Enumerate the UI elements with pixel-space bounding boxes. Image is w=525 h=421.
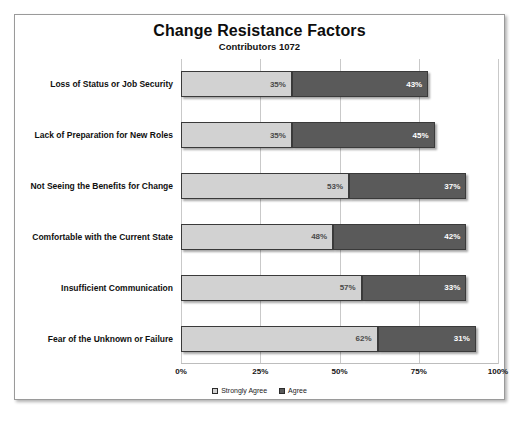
bar-row: Not Seeing the Benefits for Change53%37%: [181, 173, 498, 199]
bar-row: Comfortable with the Current State48%42%: [181, 224, 498, 250]
x-axis-tick-label: 0%: [175, 367, 187, 376]
bar-segment-strongly-agree[interactable]: 35%: [181, 71, 292, 97]
gridline-25pct: [260, 59, 261, 364]
bar-row: Loss of Status or Job Security35%43%: [181, 71, 498, 97]
bar-segment-strongly-agree[interactable]: 53%: [181, 173, 349, 199]
bar-segment-strongly-agree[interactable]: 57%: [181, 275, 362, 301]
legend-item-agree[interactable]: Agree: [279, 387, 307, 394]
category-label: Fear of the Unknown or Failure: [48, 326, 173, 352]
bar-segment-agree[interactable]: 43%: [292, 71, 428, 97]
category-label: Comfortable with the Current State: [32, 224, 173, 250]
bar-segment-agree[interactable]: 33%: [362, 275, 467, 301]
gridline-0pct: [181, 59, 182, 364]
title-block: Change Resistance Factors Contributors 1…: [15, 21, 504, 53]
chart-legend: Strongly AgreeAgree: [15, 387, 504, 394]
legend-swatch-icon: [279, 388, 285, 394]
category-label: Loss of Status or Job Security: [50, 71, 173, 97]
chart-frame: Change Resistance Factors Contributors 1…: [14, 14, 505, 400]
x-axis-tick-label: 25%: [252, 367, 268, 376]
chart-subtitle: Contributors 1072: [15, 41, 504, 53]
bar-segment-agree[interactable]: 37%: [349, 173, 466, 199]
gridline-50pct: [340, 59, 341, 364]
category-label: Lack of Preparation for New Roles: [35, 122, 173, 148]
bar-track: 35%43%: [181, 71, 498, 97]
bar-track: 62%31%: [181, 326, 498, 352]
gridline-100pct: [498, 59, 499, 364]
bar-segment-strongly-agree[interactable]: 62%: [181, 326, 378, 352]
category-label: Not Seeing the Benefits for Change: [30, 173, 173, 199]
bar-row: Lack of Preparation for New Roles35%45%: [181, 122, 498, 148]
legend-label: Strongly Agree: [221, 387, 267, 394]
bar-row: Fear of the Unknown or Failure62%31%: [181, 326, 498, 352]
x-axis-tick-label: 100%: [488, 367, 508, 376]
gridline-75pct: [419, 59, 420, 364]
plot-area: Loss of Status or Job Security35%43%Lack…: [181, 59, 498, 364]
bar-track: 53%37%: [181, 173, 498, 199]
bar-segment-agree[interactable]: 45%: [292, 122, 435, 148]
legend-label: Agree: [288, 387, 307, 394]
bar-segment-strongly-agree[interactable]: 35%: [181, 122, 292, 148]
axis-baseline: [181, 363, 498, 364]
x-axis-tick-label: 50%: [331, 367, 347, 376]
bar-row: Insufficient Communication57%33%: [181, 275, 498, 301]
bar-track: 57%33%: [181, 275, 498, 301]
bar-track: 35%45%: [181, 122, 498, 148]
bar-segment-strongly-agree[interactable]: 48%: [181, 224, 333, 250]
bar-segment-agree[interactable]: 31%: [378, 326, 476, 352]
category-label: Insufficient Communication: [61, 275, 173, 301]
chart-title: Change Resistance Factors: [15, 21, 504, 40]
legend-swatch-icon: [212, 388, 218, 394]
x-axis: 0%25%50%75%100%: [181, 367, 498, 381]
bar-segment-agree[interactable]: 42%: [333, 224, 466, 250]
bar-track: 48%42%: [181, 224, 498, 250]
legend-item-strongly-agree[interactable]: Strongly Agree: [212, 387, 267, 394]
x-axis-tick-label: 75%: [411, 367, 427, 376]
